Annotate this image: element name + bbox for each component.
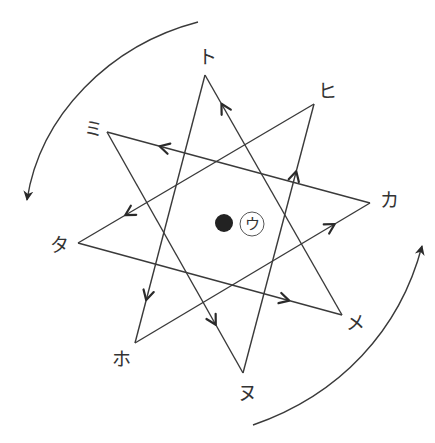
vertex-label-nu: ヌ — [238, 382, 257, 404]
edge-arrowheads — [125, 104, 335, 325]
rotation-arc-lower-right — [253, 246, 422, 425]
arrowhead-ho-ka — [324, 224, 335, 233]
edge-nu-hi — [243, 104, 314, 373]
edge-mi-nu — [107, 132, 243, 373]
edge-hi-ta — [78, 104, 314, 243]
vertex-label-hi: ヒ — [318, 80, 337, 102]
center-label: ウ — [245, 215, 260, 233]
center-dot — [215, 214, 233, 232]
edge-ta-me — [78, 243, 342, 315]
edge-to-ho — [135, 75, 205, 343]
vertex-label-mi: ミ — [84, 118, 103, 140]
edge-ka-mi — [107, 132, 370, 203]
vertex-label-me: メ — [346, 312, 365, 334]
star-diagram: ト ヒ カ メ ヌ ホ タ ミ ウ — [0, 0, 435, 443]
edge-me-to — [205, 75, 342, 315]
vertex-label-ta: タ — [50, 234, 69, 256]
vertex-label-ho: ホ — [112, 348, 131, 370]
rotation-arc-upper-left — [27, 22, 198, 200]
vertex-label-to: ト — [198, 46, 217, 68]
vertex-label-ka: カ — [380, 189, 399, 211]
